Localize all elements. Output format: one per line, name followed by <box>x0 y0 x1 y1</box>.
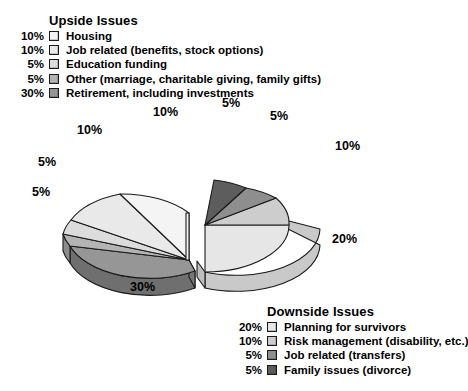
legend-swatch-planning-for-survivors <box>267 322 277 332</box>
legend-swatch-risk-management <box>267 336 277 346</box>
legend-label: Risk management (disability, etc.) <box>284 334 468 348</box>
callout-left-lower: 5% <box>32 186 50 199</box>
legend-label: Education funding <box>66 57 167 71</box>
legend-percent: 5% <box>228 363 267 377</box>
callout-right-mid: 10% <box>335 140 360 153</box>
callout-right-dark: 5% <box>270 110 288 123</box>
legend-percent: 20% <box>228 320 267 334</box>
callout-left-top: 10% <box>153 106 178 119</box>
slice-cut-planning <box>197 261 205 288</box>
callout-right-bottom: 20% <box>332 233 357 246</box>
legend-upside-issues: Upside Issues 10% Housing 10% Job relate… <box>10 14 321 100</box>
legend-item-other: 5% Other (marriage, charitable giving, f… <box>10 72 321 86</box>
legend-label: Planning for survivors <box>284 320 406 334</box>
legend-downside-issues: Downside Issues 20% Planning for survivo… <box>228 305 468 377</box>
legend-item-job-related-transfers: 5% Job related (transfers) <box>228 348 468 362</box>
slice-planning-for-survivors <box>205 225 289 272</box>
legend-percent: 5% <box>10 57 49 71</box>
legend-downside-title: Downside Issues <box>267 305 468 319</box>
legend-label: Family issues (divorce) <box>284 363 411 377</box>
pie-chart: 10% 10% 5% 5% 30% 5% 5% 10% 20% <box>0 96 400 321</box>
callout-bottom: 30% <box>130 281 155 294</box>
legend-percent: 10% <box>10 43 49 57</box>
legend-label: Housing <box>66 29 112 43</box>
callout-left-mid: 5% <box>38 156 56 169</box>
legend-swatch-other <box>49 74 59 84</box>
pie-chart-svg <box>0 96 400 321</box>
legend-item-planning-for-survivors: 20% Planning for survivors <box>228 320 468 334</box>
legend-swatch-family-issues-divorce <box>267 365 277 375</box>
slice-housing-edge <box>186 213 189 260</box>
callout-right-darkest: 5% <box>222 97 240 110</box>
legend-item-family-issues-divorce: 5% Family issues (divorce) <box>228 363 468 377</box>
legend-swatch-job-related-benefits <box>49 45 59 55</box>
legend-item-risk-management: 10% Risk management (disability, etc.) <box>228 334 468 348</box>
legend-swatch-housing <box>49 31 59 41</box>
legend-item-job-related-benefits: 10% Job related (benefits, stock options… <box>10 43 321 57</box>
legend-label: Job related (benefits, stock options) <box>66 43 263 57</box>
legend-swatch-job-related-transfers <box>267 350 277 360</box>
legend-swatch-education-funding <box>49 59 59 69</box>
legend-item-housing: 10% Housing <box>10 29 321 43</box>
legend-label: Other (marriage, charitable giving, fami… <box>66 72 321 86</box>
legend-item-education-funding: 5% Education funding <box>10 57 321 71</box>
legend-percent: 5% <box>228 348 267 362</box>
legend-percent: 10% <box>228 334 267 348</box>
callout-left-upper: 10% <box>77 124 102 137</box>
legend-label: Job related (transfers) <box>284 348 405 362</box>
legend-percent: 5% <box>10 72 49 86</box>
legend-percent: 10% <box>10 29 49 43</box>
legend-upside-title: Upside Issues <box>49 14 321 28</box>
